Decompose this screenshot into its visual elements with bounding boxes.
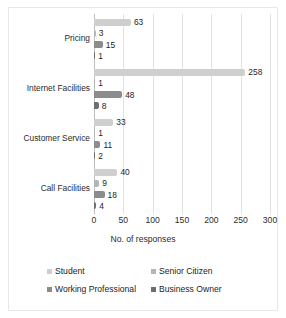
bar-value-label: 18	[108, 190, 117, 198]
bar-row: 9	[94, 180, 270, 187]
x-axis-title: No. of responses	[0, 234, 286, 244]
bar[interactable]	[94, 119, 113, 126]
y-axis-category-label: Pricing	[0, 34, 90, 42]
legend-swatch-icon	[47, 269, 52, 274]
legend-item-senior-citizen[interactable]: Senior Citizen	[143, 266, 251, 276]
bar-row: 63	[94, 19, 270, 26]
x-axis-tick: 50	[119, 216, 129, 225]
x-axis-tick: 150	[175, 216, 189, 225]
bar[interactable]	[94, 91, 122, 98]
bar-row: 1	[94, 130, 270, 137]
bar-row: 18	[94, 191, 270, 198]
y-axis-category-label: Call Facilities	[0, 184, 90, 192]
bar-row: 33	[94, 119, 270, 126]
bar-value-label: 40	[120, 168, 129, 176]
bar[interactable]	[94, 130, 95, 137]
bar-value-label: 1	[98, 52, 103, 60]
bar[interactable]	[94, 102, 99, 109]
legend-swatch-icon	[151, 269, 156, 274]
bar-value-label: 2	[98, 152, 103, 160]
bar-row: 11	[94, 141, 270, 148]
legend-label: Working Professional	[55, 284, 136, 294]
bar-value-label: 3	[99, 29, 104, 37]
legend-item-working-professional[interactable]: Working Professional	[35, 284, 143, 294]
legend-swatch-icon	[151, 287, 156, 292]
bar-row: 258	[94, 69, 270, 76]
bar-row: 15	[94, 41, 270, 48]
bar[interactable]	[94, 152, 95, 159]
bar-value-label: 258	[248, 68, 262, 76]
bar[interactable]	[94, 41, 103, 48]
bar-row: 40	[94, 169, 270, 176]
x-axis-tick: 100	[145, 216, 159, 225]
bar-group: 331112	[94, 114, 270, 164]
y-axis-category-labels: PricingInternet FacilitiesCustomer Servi…	[22, 14, 94, 220]
bar[interactable]	[94, 30, 96, 37]
legend-label: Student	[55, 266, 85, 276]
bar-row: 3	[94, 30, 270, 37]
bar-value-label: 9	[102, 179, 107, 187]
bar-value-label: 63	[134, 18, 143, 26]
gridline	[270, 14, 271, 214]
bar-group: 633151	[94, 14, 270, 64]
x-axis-tick-labels: 050100150200250300	[94, 216, 270, 232]
x-axis-tick: 0	[92, 216, 97, 225]
y-axis-category-label: Customer Service	[0, 134, 90, 142]
bar-group: 409184	[94, 164, 270, 214]
legend-swatch-icon	[47, 287, 52, 292]
bar-value-label: 48	[125, 90, 134, 98]
bar[interactable]	[94, 169, 117, 176]
plot-area: PricingInternet FacilitiesCustomer Servi…	[22, 14, 270, 220]
bar-value-label: 11	[103, 140, 112, 148]
legend-item-student[interactable]: Student	[35, 266, 143, 276]
bar-row: 1	[94, 80, 270, 87]
bar-row: 8	[94, 102, 270, 109]
plot-bars-region: 6331512581488331112409184	[94, 14, 270, 214]
chart-legend: Student Senior Citizen Working Professio…	[0, 266, 286, 310]
x-axis-tick: 250	[233, 216, 247, 225]
bar-value-label: 1	[98, 79, 103, 87]
bar-group: 2581488	[94, 64, 270, 114]
bar[interactable]	[94, 191, 105, 198]
bar-chart: PricingInternet FacilitiesCustomer Servi…	[0, 0, 286, 318]
legend-label: Senior Citizen	[159, 266, 213, 276]
bar-row: 48	[94, 91, 270, 98]
bar-value-label: 15	[106, 40, 115, 48]
bar[interactable]	[94, 19, 131, 26]
bar[interactable]	[94, 52, 95, 59]
bar-row: 1	[94, 52, 270, 59]
bar[interactable]	[94, 141, 100, 148]
bar[interactable]	[94, 69, 245, 76]
legend-item-business-owner[interactable]: Business Owner	[143, 284, 251, 294]
bar-value-label: 8	[102, 102, 107, 110]
bar-value-label: 33	[116, 118, 125, 126]
bar[interactable]	[94, 80, 95, 87]
bar-row: 2	[94, 152, 270, 159]
bar[interactable]	[94, 202, 96, 209]
bar[interactable]	[94, 180, 99, 187]
x-axis-tick: 300	[263, 216, 277, 225]
x-axis-tick: 200	[204, 216, 218, 225]
bar-value-label: 4	[99, 202, 104, 210]
legend-label: Business Owner	[159, 284, 222, 294]
y-axis-category-label: Internet Facilities	[0, 84, 90, 92]
legend-row-1: Student Senior Citizen	[0, 266, 286, 276]
legend-row-2: Working Professional Business Owner	[0, 284, 286, 294]
bar-value-label: 1	[98, 129, 103, 137]
bar-row: 4	[94, 202, 270, 209]
